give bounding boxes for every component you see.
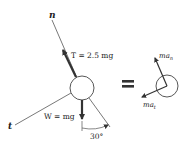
- ma-n-sub: n: [170, 55, 173, 61]
- ma-n-base: ma: [159, 52, 170, 60]
- body-circle: [70, 76, 94, 100]
- equals-sign-bottom: [122, 85, 134, 88]
- tension-label: T = 2.5 mg: [71, 51, 113, 60]
- fbd-diagram: n t T = 2.5 mg W = mg 30° man mat: [0, 0, 188, 152]
- t-axis-label: t: [8, 121, 13, 131]
- ma-t-label: mat: [143, 101, 157, 110]
- weight-label: W = mg: [44, 112, 75, 121]
- equals-sign-top: [122, 80, 134, 83]
- angle-arc: [82, 125, 108, 129]
- ma-n-label: man: [159, 52, 173, 61]
- angle-label: 30°: [90, 132, 104, 141]
- angle-reference-line: [89, 98, 110, 127]
- ma-t-sub: t: [154, 104, 157, 110]
- n-axis-label: n: [49, 10, 56, 20]
- ma-t-base: ma: [143, 101, 154, 109]
